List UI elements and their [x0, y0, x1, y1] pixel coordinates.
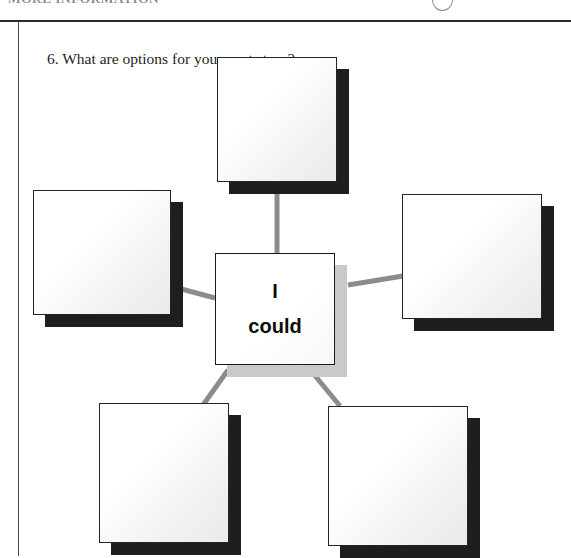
circle-outline-icon [432, 0, 453, 11]
question-frame: 6. What are options for your next steps? [18, 20, 571, 556]
page-header-title: MORE INFORMATION [8, 0, 159, 7]
page-header: MORE INFORMATION [0, 0, 571, 20]
question-prompt: 6. What are options for your next steps? [47, 50, 295, 68]
